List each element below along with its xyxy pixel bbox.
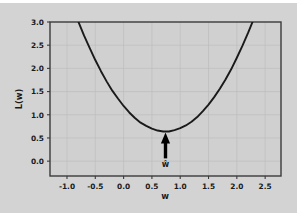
x-tick-label: 0.5	[145, 182, 158, 191]
y-tick-label: 2.0	[31, 64, 44, 73]
x-tick-label: 0.0	[117, 182, 130, 191]
y-axis-title: L(w)	[14, 88, 24, 109]
y-tick-label: 1.0	[31, 111, 44, 120]
tick-labels-x: -1.0-0.50.00.51.01.52.02.5	[59, 182, 272, 191]
y-tick-label: 1.5	[31, 87, 44, 96]
x-tick-label: 1.0	[174, 182, 187, 191]
x-axis-title: w	[161, 191, 169, 201]
optimal-w-label: ŵ	[162, 160, 170, 169]
y-tick-label: 2.5	[31, 41, 44, 50]
tick-labels-y: 0.00.51.01.52.02.53.0	[31, 18, 44, 166]
x-tick-label: 1.5	[202, 182, 215, 191]
figure-canvas: -1.0-0.50.00.51.01.52.02.5 0.00.51.01.52…	[0, 3, 297, 213]
y-tick-label: 3.0	[31, 18, 44, 27]
loss-curve-chart: -1.0-0.50.00.51.01.52.02.5 0.00.51.01.52…	[0, 3, 297, 213]
y-tick-label: 0.0	[31, 157, 44, 166]
y-tick-label: 0.5	[31, 134, 44, 143]
x-tick-label: -0.5	[87, 182, 103, 191]
x-tick-label: 2.0	[230, 182, 243, 191]
x-tick-label: 2.5	[259, 182, 272, 191]
x-tick-label: -1.0	[59, 182, 75, 191]
